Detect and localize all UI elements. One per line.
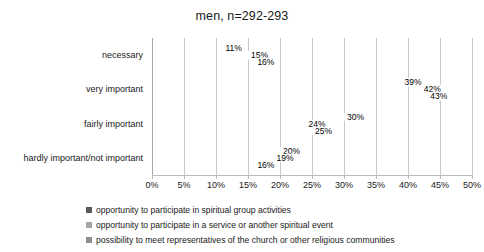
category-label: fairly important — [0, 119, 143, 129]
chart-title: men, n=292-293 — [0, 9, 484, 23]
x-axis-tick — [312, 175, 313, 179]
x-axis-tick-label: 20% — [271, 180, 289, 190]
x-axis-tick — [440, 175, 441, 179]
x-axis-tick-label: 25% — [303, 180, 321, 190]
x-axis-tick — [408, 175, 409, 179]
x-axis-tick-label: 15% — [239, 180, 257, 190]
legend-item[interactable]: possibility to meet representatives of t… — [86, 232, 484, 247]
x-axis-tick-label: 50% — [463, 180, 481, 190]
legend-swatch-icon — [86, 222, 92, 228]
bar-value-label: 43% — [427, 92, 447, 101]
category-label: very important — [0, 84, 143, 94]
legend-label: opportunity to participate in a service … — [96, 220, 333, 230]
bar-chart: men, n=292-293 11%15%16%39%42%43%30%24%2… — [0, 0, 484, 252]
bar: 43% — [152, 93, 427, 100]
bar: 20% — [152, 147, 280, 154]
x-axis-tick — [216, 175, 217, 179]
x-axis-tick — [248, 175, 249, 179]
bar-value-label: 19% — [274, 154, 294, 163]
legend-item[interactable]: opportunity to participate in a service … — [86, 217, 484, 232]
x-axis-tick-label: 0% — [145, 180, 158, 190]
bar-value-label: 16% — [254, 58, 274, 67]
bar-value-label: 25% — [312, 126, 332, 135]
bar: 39% — [152, 79, 402, 86]
bar: 11% — [152, 45, 222, 52]
x-axis-tick-label: 40% — [399, 180, 417, 190]
gridline — [472, 38, 473, 175]
bar-group: 20%19%16% — [152, 141, 472, 175]
x-axis-tick — [184, 175, 185, 179]
x-axis-tick-label: 5% — [177, 180, 190, 190]
legend-item[interactable]: opportunity to participate in spiritual … — [86, 202, 484, 217]
bar-group: 11%15%16% — [152, 38, 472, 72]
x-axis-tick-label: 35% — [367, 180, 385, 190]
x-axis-tick — [472, 175, 473, 179]
bar-group: 30%24%25% — [152, 107, 472, 141]
legend: opportunity to participate in spiritual … — [86, 202, 484, 247]
bar-groups: 11%15%16%39%42%43%30%24%25%20%19%16% — [152, 38, 472, 175]
category-axis-labels: necessaryvery importantfairly importanth… — [0, 38, 148, 175]
bar-value-label: 16% — [254, 161, 274, 170]
bar: 25% — [152, 127, 312, 134]
legend-swatch-icon — [86, 207, 92, 213]
x-axis-tick-label: 10% — [207, 180, 225, 190]
legend-swatch-icon — [86, 237, 92, 243]
bar: 24% — [152, 120, 306, 127]
legend-label: opportunity to participate in spiritual … — [96, 205, 291, 215]
bar: 15% — [152, 52, 248, 59]
bar: 16% — [152, 161, 254, 168]
legend-label: possibility to meet representatives of t… — [96, 235, 395, 245]
x-axis-tick — [280, 175, 281, 179]
bar: 16% — [152, 59, 254, 66]
category-label: necessary — [0, 50, 143, 60]
x-axis-tick — [376, 175, 377, 179]
bar: 42% — [152, 86, 421, 93]
bar-group: 39%42%43% — [152, 72, 472, 106]
x-axis-tick — [344, 175, 345, 179]
category-label: hardly important/not important — [0, 153, 143, 163]
x-axis-tick-labels: 0%5%10%15%20%25%30%35%40%45%50% — [152, 180, 472, 194]
x-axis-tick-label: 30% — [335, 180, 353, 190]
x-axis-ticks — [152, 175, 472, 179]
plot-area: 11%15%16%39%42%43%30%24%25%20%19%16% — [152, 38, 472, 175]
x-axis-tick-label: 45% — [431, 180, 449, 190]
x-axis-tick — [152, 175, 153, 179]
bar-value-label: 30% — [344, 112, 364, 121]
